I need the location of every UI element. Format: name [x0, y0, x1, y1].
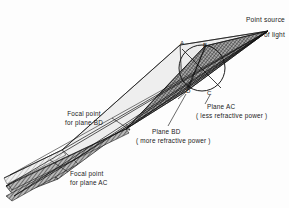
label-point-source-line2: of light — [264, 31, 285, 38]
label-plane-ac-power: ( less refractive power ) — [196, 112, 267, 120]
label-point-source: Point source of light — [238, 8, 285, 47]
point-label-a: A — [180, 39, 184, 46]
label-plane-ac: Plane AC — [207, 103, 235, 111]
point-label-c: C — [207, 89, 212, 96]
label-point-source-line1: Point source — [246, 16, 285, 23]
label-plane-bd: Plane BD — [152, 128, 181, 136]
label-focal-point-bd-plane: for plane BD — [53, 119, 115, 127]
label-focal-point-bd: Focal point — [53, 110, 115, 118]
point-label-d: D — [186, 87, 191, 94]
label-focal-point-ac-plane: for plane AC — [70, 179, 108, 187]
point-label-b: B — [203, 41, 207, 48]
label-plane-bd-power: ( more refractive power ) — [136, 137, 211, 145]
figure-canvas: Point source of light Plane AC ( less re… — [0, 0, 289, 208]
label-focal-point-ac: Focal point — [70, 170, 103, 178]
